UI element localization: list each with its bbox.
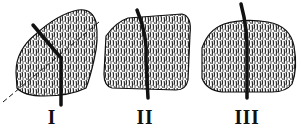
specimen-2-shape	[104, 10, 190, 98]
specimen-3-shape	[202, 4, 296, 98]
specimen-3-label: III	[230, 108, 264, 127]
specimen-1-shape	[3, 10, 99, 105]
specimen-2-label: II	[128, 108, 162, 127]
specimen-1-label: I	[35, 108, 69, 127]
